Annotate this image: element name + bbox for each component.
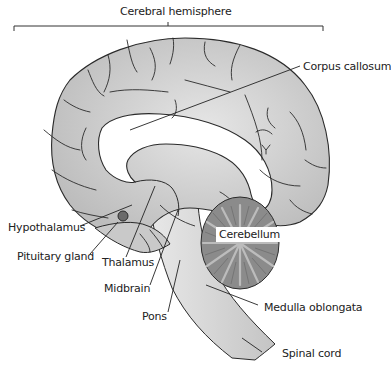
label-pons: Pons: [142, 310, 167, 323]
label-pituitary-gland: Pituitary gland: [17, 250, 94, 263]
cerebral-hemisphere-bracket: [14, 22, 323, 31]
label-thalamus: Thalamus: [102, 256, 154, 269]
label-medulla-oblongata: Medulla oblongata: [264, 301, 362, 314]
cerebellum-shape: [201, 197, 279, 289]
label-hypothalamus: Hypothalamus: [8, 221, 85, 234]
label-cerebral-hemisphere: Cerebral hemisphere: [120, 5, 232, 18]
label-midbrain: Midbrain: [104, 282, 150, 295]
label-corpus-callosum: Corpus callosum: [303, 60, 391, 73]
pituitary-gland-shape: [118, 211, 128, 221]
label-cerebellum: Cerebellum: [216, 227, 283, 242]
label-spinal-cord: Spinal cord: [282, 347, 341, 360]
